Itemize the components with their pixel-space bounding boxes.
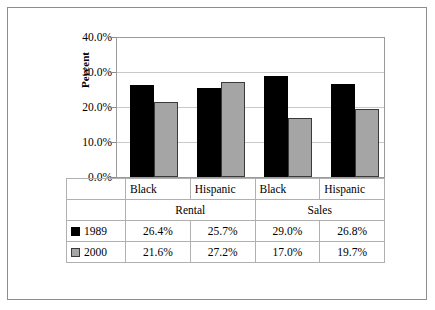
- bar-group-rental-hispanic: [187, 38, 251, 177]
- bar-1989-rental-black[interactable]: [130, 85, 154, 177]
- bar-chart: Percent 40.0% 30.0% 20.0% 10.0% 0.0%: [0, 0, 435, 310]
- value-2000-sales-hispanic: 19.7%: [320, 242, 385, 263]
- y-tick-label-10: 10.0%: [66, 136, 112, 148]
- value-1989-sales-hispanic: 26.8%: [320, 221, 385, 242]
- y-tick-label-20: 20.0%: [66, 101, 112, 113]
- bar-2000-sales-hispanic[interactable]: [355, 109, 379, 177]
- value-2000-sales-black: 17.0%: [255, 242, 320, 263]
- value-1989-rental-black: 26.4%: [126, 221, 191, 242]
- data-table-block: Black Hispanic Black Hispanic Rental Sal…: [66, 178, 385, 263]
- data-table: Black Hispanic Black Hispanic Rental Sal…: [66, 178, 385, 263]
- category-label-rental-hispanic: Hispanic: [190, 179, 255, 200]
- category-label-sales-hispanic: Hispanic: [320, 179, 385, 200]
- bar-group-sales-black: [254, 38, 318, 177]
- category-row-spacer: [67, 179, 126, 200]
- category-label-sales-black: Black: [255, 179, 320, 200]
- bar-1989-sales-black[interactable]: [264, 76, 288, 177]
- bar-group-rental-black: [120, 38, 184, 177]
- category-row: Black Hispanic Black Hispanic: [67, 179, 385, 200]
- group-label-rental: Rental: [126, 200, 256, 221]
- bar-1989-sales-hispanic[interactable]: [331, 84, 355, 177]
- y-axis-tick-labels: 40.0% 30.0% 20.0% 10.0% 0.0%: [66, 0, 112, 200]
- black-square-icon: [71, 227, 80, 236]
- group-label-sales: Sales: [255, 200, 385, 221]
- value-2000-rental-black: 21.6%: [126, 242, 191, 263]
- legend-label-2000: 2000: [84, 246, 107, 258]
- bar-group-sales-hispanic: [321, 38, 385, 177]
- chart-page: Percent 40.0% 30.0% 20.0% 10.0% 0.0%: [0, 0, 435, 310]
- gray-square-icon: [71, 248, 80, 257]
- legend-label-1989: 1989: [84, 225, 107, 237]
- bar-1989-rental-hispanic[interactable]: [197, 88, 221, 177]
- value-2000-rental-hispanic: 27.2%: [190, 242, 255, 263]
- plot-area: [116, 37, 385, 178]
- y-tick-label-40: 40.0%: [66, 31, 112, 43]
- bars-layer: [117, 38, 384, 177]
- group-row: Rental Sales: [67, 200, 385, 221]
- y-tick-label-30: 30.0%: [66, 66, 112, 78]
- table-row: 2000 21.6% 27.2% 17.0% 19.7%: [67, 242, 385, 263]
- legend-entry-2000[interactable]: 2000: [67, 242, 126, 263]
- table-row: 1989 26.4% 25.7% 29.0% 26.8%: [67, 221, 385, 242]
- legend-entry-1989[interactable]: 1989: [67, 221, 126, 242]
- value-1989-sales-black: 29.0%: [255, 221, 320, 242]
- group-row-spacer: [67, 200, 126, 221]
- value-1989-rental-hispanic: 25.7%: [190, 221, 255, 242]
- bar-2000-rental-black[interactable]: [154, 102, 178, 177]
- category-label-rental-black: Black: [126, 179, 191, 200]
- bar-2000-rental-hispanic[interactable]: [221, 82, 245, 177]
- bar-2000-sales-black[interactable]: [288, 118, 312, 177]
